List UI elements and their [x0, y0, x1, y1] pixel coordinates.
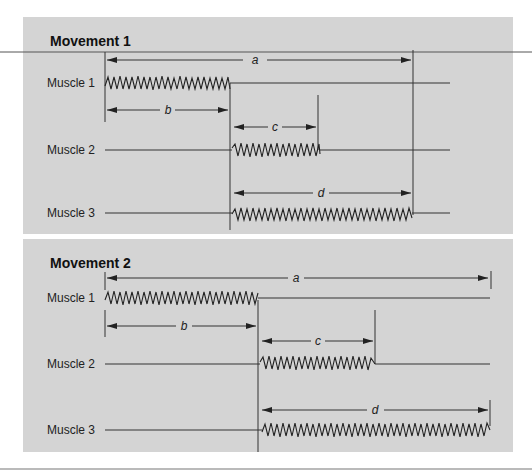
interval-c-label: c [272, 120, 278, 134]
interval-c-label: c [315, 334, 321, 348]
interval-d-label: d [372, 403, 379, 417]
muscle-label: Muscle 1 [47, 291, 95, 305]
muscle-label: Muscle 3 [47, 206, 95, 220]
interval-a-label: a [293, 271, 300, 285]
panel-title: Movement 1 [50, 33, 131, 49]
muscle-label: Muscle 1 [47, 76, 95, 90]
panel-title: Movement 2 [50, 255, 131, 271]
emg-timing-diagram: Movement 1 a Muscle 1 b c Muscle 2 d Mus [0, 0, 532, 474]
panel-movement-1-bg [23, 17, 513, 234]
muscle-label: Muscle 2 [47, 357, 95, 371]
interval-b-label: b [165, 103, 172, 117]
muscle-label: Muscle 2 [47, 143, 95, 157]
muscle-label: Muscle 3 [47, 423, 95, 437]
interval-a-label: a [252, 53, 259, 67]
interval-d-label: d [318, 186, 325, 200]
interval-b-label: b [181, 319, 188, 333]
